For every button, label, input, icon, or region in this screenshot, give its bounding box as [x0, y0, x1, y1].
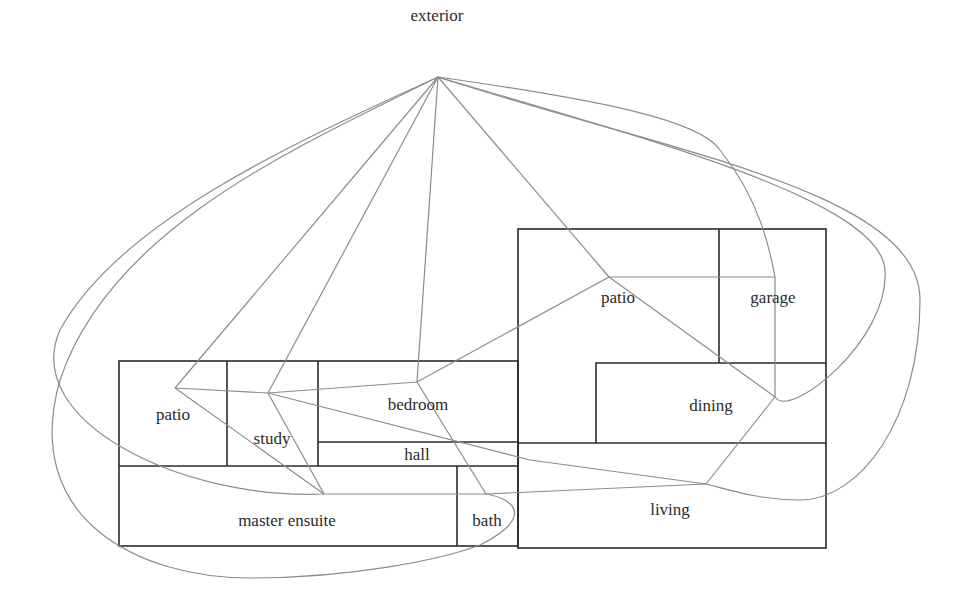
adjacency-edges: [52, 77, 920, 578]
room-labels: exterior patio study bedroom hall master…: [156, 6, 796, 530]
label-dining: dining: [689, 396, 733, 415]
label-hall: hall: [404, 445, 430, 464]
label-study: study: [254, 429, 291, 448]
label-exterior: exterior: [411, 6, 464, 25]
edge-exterior-living: [438, 77, 920, 500]
edge-exterior-garage: [438, 77, 775, 277]
edge-exterior-patio-left: [175, 77, 438, 388]
label-bedroom: bedroom: [388, 395, 448, 414]
edge-exterior-dining: [438, 77, 885, 401]
label-patio-right: patio: [601, 288, 635, 307]
edge-bath-living: [486, 484, 706, 494]
edge-exterior-patio-right: [438, 77, 609, 277]
label-patio-left: patio: [156, 405, 190, 424]
label-living: living: [650, 500, 690, 519]
label-bath: bath: [472, 511, 502, 530]
edge-exterior-bath: [52, 77, 514, 578]
edge-patio-left-study: [175, 388, 268, 393]
edge-exterior-master-ensuite: [54, 77, 438, 494]
edge-study-living: [268, 393, 706, 484]
label-master-ensuite: master ensuite: [238, 511, 336, 530]
edge-study-bedroom: [268, 382, 417, 393]
edge-exterior-study: [268, 77, 438, 393]
edge-exterior-bedroom: [417, 77, 438, 382]
label-garage: garage: [750, 288, 795, 307]
floor-plan-diagram: exterior patio study bedroom hall master…: [0, 0, 967, 595]
edge-bedroom-patio-right: [417, 277, 609, 382]
